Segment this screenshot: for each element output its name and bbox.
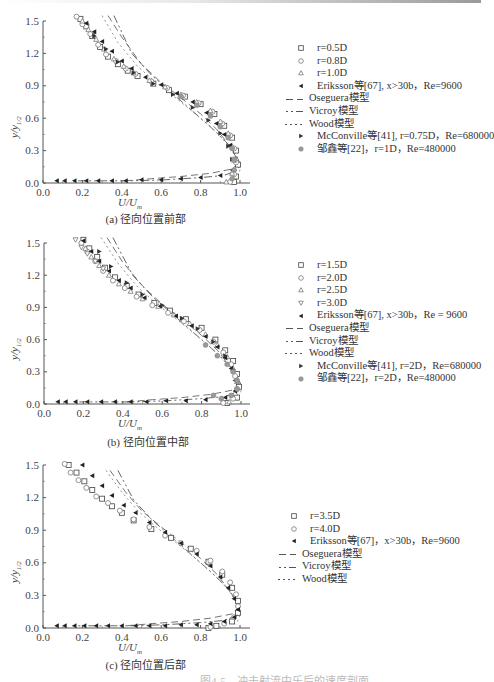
y-tick-label: 1.2 <box>25 491 39 503</box>
x-tick-label: 1.0 <box>233 631 247 643</box>
x-tick-label: 0.8 <box>194 631 208 643</box>
legend-item: r=3.5D <box>286 510 460 523</box>
y-tick-label: 0.9 <box>25 524 39 536</box>
model-curves <box>73 470 241 625</box>
line-dashdotdot-icon <box>276 561 300 573</box>
curve-dashdotdot <box>73 470 241 625</box>
x-tick-label: 0.2 <box>76 631 90 643</box>
triangle-left-marker-series <box>54 463 240 629</box>
legend-label: Vicroy模型 <box>300 560 351 573</box>
legend-item: Eriksson等[67]，x>30b，Re=9600 <box>286 535 460 548</box>
legend: r=3.5Dr=4.0DEriksson等[67]，x>30b，Re=9600O… <box>286 510 460 586</box>
triangle-left-marker-icon <box>286 535 308 547</box>
circle-marker-series <box>62 461 240 629</box>
legend-item: Wood模型 <box>286 573 460 586</box>
legend-label: r=3.5D <box>308 510 340 523</box>
curve-dotdot <box>106 470 240 624</box>
y-axis-label: y/y1/2 <box>8 561 23 583</box>
subfigure-caption: (c) 径向位置后部 <box>46 656 246 672</box>
axes: 0.00.30.60.91.21.50.00.20.40.60.81.0 <box>25 459 250 644</box>
y-tick-label: 0.3 <box>25 589 39 601</box>
legend-label: Eriksson等[67]，x>30b，Re=9600 <box>308 535 460 548</box>
circle-marker-icon <box>286 523 308 535</box>
x-axis-label: U/Um <box>100 641 160 656</box>
line-dash-icon <box>276 548 300 560</box>
data-series <box>54 461 240 630</box>
y-tick-label: 1.5 <box>25 459 39 471</box>
figure-caption: 图4-5 冲击射流中乐后的速度剖面 <box>200 672 369 682</box>
legend-item: Vicroy模型 <box>286 560 460 573</box>
x-tick-label: 0.0 <box>36 631 50 643</box>
square-marker-series <box>66 463 240 631</box>
legend-label: r=4.0D <box>308 523 340 536</box>
legend-item: r=4.0D <box>286 523 460 536</box>
legend-item: Oseguera模型 <box>286 548 460 561</box>
legend-label: Oseguera模型 <box>300 548 362 561</box>
square-marker-icon <box>286 510 308 522</box>
legend-label: Wood模型 <box>300 573 347 586</box>
line-dotdot-icon <box>276 573 300 585</box>
curve-dash <box>110 470 238 625</box>
y-tick-label: 0.6 <box>25 556 39 568</box>
